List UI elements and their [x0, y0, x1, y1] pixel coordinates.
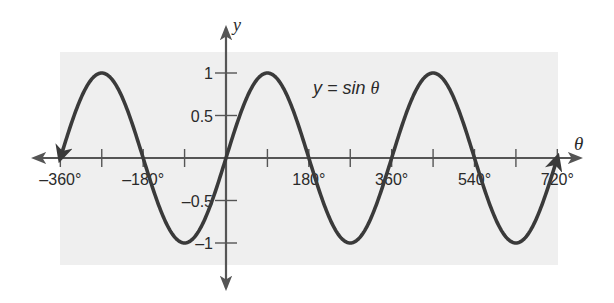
x-tick-label: 180° [292, 171, 325, 188]
y-tick-label: –1 [195, 235, 213, 252]
equation-prefix: y = sin [311, 78, 371, 98]
sine-chart: –360°–180°180°360°540°720° 10.5–0.5–1 y … [0, 0, 614, 303]
y-tick-label: 1 [204, 65, 213, 82]
x-tick-label: 540° [458, 171, 491, 188]
x-tick-label: 360° [375, 171, 408, 188]
x-tick-label: –360° [39, 171, 81, 188]
x-axis-label: θ [574, 133, 583, 154]
x-tick-label: 720° [541, 171, 574, 188]
equation-label: y = sin θ [311, 78, 380, 98]
y-tick-label: 0.5 [191, 108, 213, 125]
x-tick-label: –180° [122, 171, 164, 188]
equation-variable: θ [371, 78, 380, 98]
y-axis-label: y [231, 15, 241, 35]
